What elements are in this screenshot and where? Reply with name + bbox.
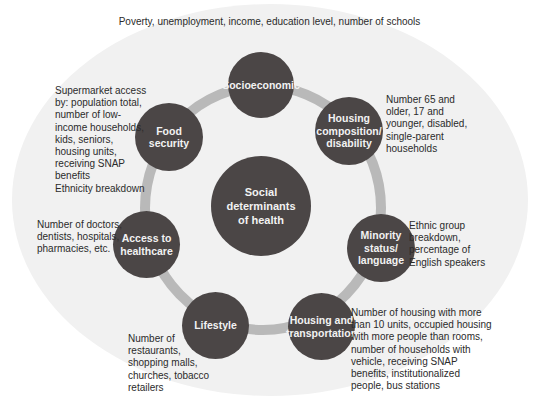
description-housing-transportation: Number of housing with more than 10 unit… bbox=[351, 307, 492, 392]
node-label: Lifestyle bbox=[194, 319, 237, 332]
node-housing-transportation: Housing and transportation bbox=[288, 293, 355, 360]
node-label: Access to healthcare bbox=[120, 232, 173, 257]
center-node-social-determinants: Social determinants of health bbox=[211, 156, 311, 256]
description-lifestyle: Number of restaurants, shopping malls, c… bbox=[128, 333, 209, 394]
node-label: Socioeconomic bbox=[222, 79, 300, 92]
center-node-label: Social determinants of health bbox=[226, 185, 295, 227]
node-label: Minority status/ language bbox=[358, 229, 404, 267]
diagram-canvas: Social determinants of health Socioecono… bbox=[0, 0, 539, 414]
node-housing-composition: Housing composition/ disability bbox=[315, 97, 383, 165]
description-housing-composition: Number 65 and older, 17 and younger, dis… bbox=[386, 94, 467, 155]
node-access-healthcare: Access to healthcare bbox=[113, 211, 180, 278]
description-socioeconomic: Poverty, unemployment, income, education… bbox=[0, 16, 539, 28]
node-minority-status: Minority status/ language bbox=[347, 214, 415, 282]
description-access-healthcare: Number of doctors, dentists, hospitals, … bbox=[37, 219, 122, 256]
description-food-security: Supermarket access by: population total,… bbox=[55, 85, 146, 195]
node-label: Housing composition/ disability bbox=[316, 112, 381, 150]
node-label: Food security bbox=[137, 125, 201, 150]
description-minority-status: Ethnic group breakdown, percentage of En… bbox=[409, 220, 485, 269]
node-label: Housing and transportation bbox=[286, 314, 357, 339]
node-socioeconomic: Socioeconomic bbox=[228, 52, 294, 118]
